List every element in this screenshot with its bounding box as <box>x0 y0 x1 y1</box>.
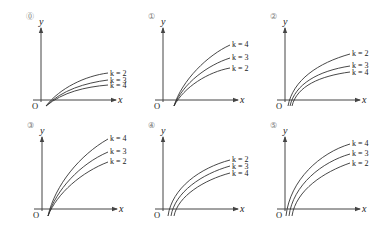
origin-label: O <box>33 210 39 220</box>
graph-panel-5: ⑤yxOk = 4k = 3k = 2 <box>270 121 369 220</box>
curve-label: k = 2 <box>232 64 249 73</box>
graph-panel-0: ⓪yxOk = 2k = 3k = 4 <box>26 12 127 111</box>
curve-k3 <box>48 152 108 216</box>
curve-k4 <box>174 45 230 106</box>
panel-number-label: ④ <box>148 121 155 130</box>
curve-label: k = 4 <box>110 134 127 143</box>
panel-number-label: ⓪ <box>26 12 34 21</box>
x-axis-label: x <box>239 203 245 214</box>
curve-label: k = 2 <box>352 159 369 168</box>
curve-k2 <box>48 162 108 216</box>
y-axis-label: y <box>160 125 166 136</box>
curve-k3 <box>46 80 108 106</box>
y-axis-label: y <box>282 16 288 27</box>
graph-panel-3: ③yxOk = 4k = 3k = 2 <box>27 121 127 220</box>
x-axis-label: x <box>117 94 123 105</box>
panel-number-label: ② <box>270 12 277 21</box>
curve-label: k = 4 <box>352 68 369 77</box>
x-axis-label: x <box>118 203 124 214</box>
x-axis-label: x <box>239 94 245 105</box>
origin-label: O <box>32 101 38 111</box>
curve-label: k = 3 <box>352 149 369 158</box>
curve-k2 <box>46 73 108 106</box>
origin-label: O <box>276 210 282 220</box>
origin-label: O <box>154 210 160 220</box>
curve-label: k = 3 <box>232 53 249 62</box>
y-axis-label: y <box>282 125 288 136</box>
curve-k2 <box>288 54 350 106</box>
curve-label: k = 4 <box>232 169 249 178</box>
x-axis-label: x <box>361 94 367 105</box>
curve-k4 <box>46 85 108 106</box>
y-axis-label: y <box>39 125 45 136</box>
curve-k4 <box>174 173 230 216</box>
panel-number-label: ① <box>148 12 155 21</box>
curve-k2 <box>292 163 350 216</box>
curve-label: k = 4 <box>352 139 369 148</box>
curve-k3 <box>289 154 350 216</box>
figure-six-graph-panels: ⓪yxOk = 2k = 3k = 4①yxOk = 4k = 3k = 2②y… <box>0 0 391 232</box>
graph-panel-4: ④yxOk = 2k = 3k = 4 <box>148 121 249 220</box>
panel-number-label: ⑤ <box>270 121 277 130</box>
curve-k3 <box>174 58 230 106</box>
origin-label: O <box>276 101 282 111</box>
graph-panel-2: ②yxOk = 2k = 3k = 4 <box>270 12 369 111</box>
y-axis-label: y <box>38 16 44 27</box>
curve-label: k = 4 <box>110 81 127 90</box>
panel-number-label: ③ <box>27 121 34 130</box>
curve-label: k = 4 <box>232 40 249 49</box>
curve-k4 <box>48 139 108 216</box>
curve-k4 <box>292 72 350 106</box>
curve-label: k = 2 <box>352 49 369 58</box>
graph-panel-1: ①yxOk = 4k = 3k = 2 <box>148 12 249 111</box>
y-axis-label: y <box>160 16 166 27</box>
x-axis-label: x <box>361 203 367 214</box>
curve-label: k = 2 <box>110 157 127 166</box>
origin-label: O <box>154 101 160 111</box>
curve-label: k = 3 <box>110 147 127 156</box>
